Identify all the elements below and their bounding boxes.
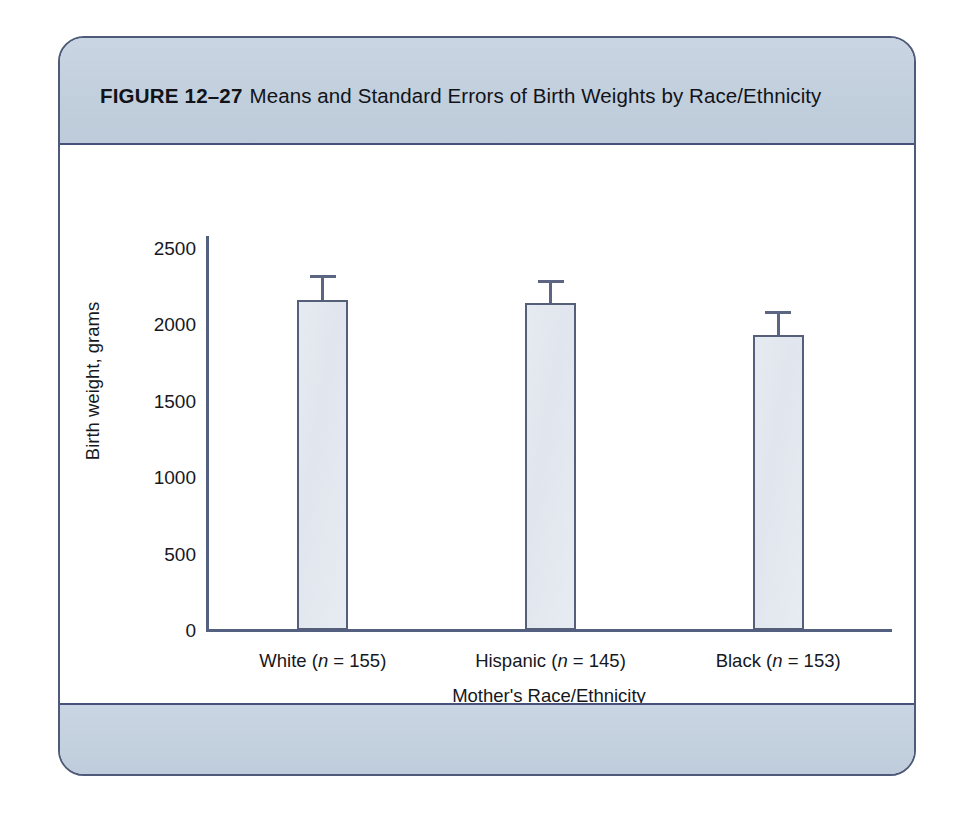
error-bar-stem (321, 278, 324, 300)
bar-chart: 05001000150020002500 Birth weight, grams… (60, 145, 916, 707)
y-axis-tick-labels: 05001000150020002500 (100, 145, 196, 707)
error-bar-cap (538, 280, 564, 283)
y-tick-label: 2000 (110, 315, 196, 334)
y-tick-label: 0 (110, 621, 196, 640)
error-bar-stem (549, 283, 552, 303)
y-tick-label: 2500 (110, 239, 196, 258)
y-axis-line (206, 236, 209, 631)
figure-number-label: FIGURE 12–27 (100, 84, 243, 107)
x-tick-label: Hispanic (n = 145) (437, 652, 665, 671)
figure-footer-band (60, 703, 914, 774)
bar-group (753, 335, 804, 630)
error-bar-cap (310, 275, 336, 278)
y-axis-title: Birth weight, grams (82, 281, 104, 481)
figure-title-label: Means and Standard Errors of Birth Weigh… (250, 84, 822, 107)
bar-group (297, 300, 348, 630)
figure-caption-band: FIGURE 12–27Means and Standard Errors of… (60, 38, 914, 145)
bar-rect (297, 300, 348, 630)
error-bar-stem (777, 314, 780, 335)
x-tick-label: White (n = 155) (209, 652, 437, 671)
y-tick-label: 1500 (110, 392, 196, 411)
figure-caption: FIGURE 12–27Means and Standard Errors of… (100, 84, 821, 108)
bar-group (525, 303, 576, 630)
chart-plot-region: 05001000150020002500 Birth weight, grams… (60, 145, 916, 707)
bar-rect (525, 303, 576, 630)
x-tick-label: Black (n = 153) (664, 652, 892, 671)
figure-frame: FIGURE 12–27Means and Standard Errors of… (58, 36, 916, 776)
bar-rect (753, 335, 804, 630)
y-tick-label: 1000 (110, 468, 196, 487)
error-bar-cap (765, 311, 791, 314)
y-tick-label: 500 (110, 545, 196, 564)
